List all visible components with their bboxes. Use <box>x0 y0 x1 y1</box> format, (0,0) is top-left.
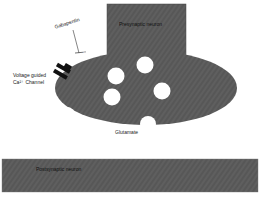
exocytosis-notch-left <box>59 107 75 123</box>
vesicle <box>137 57 154 74</box>
channel-label-line1: Voltage guided <box>13 73 46 79</box>
postsynaptic-neuron-label: Postsynaptic neuron <box>36 167 81 173</box>
presynaptic-neuron-label: Presynaptic neuron <box>119 22 162 28</box>
exocytosis-notch-bottom <box>140 116 156 132</box>
channel-label-line2: Ca²⁺ Channel <box>13 80 44 86</box>
vesicle <box>154 83 171 100</box>
glutamate-label: Glutamate <box>115 130 138 136</box>
postsynaptic-neuron <box>2 159 258 192</box>
vesicle <box>108 68 125 85</box>
vesicle <box>104 89 121 106</box>
